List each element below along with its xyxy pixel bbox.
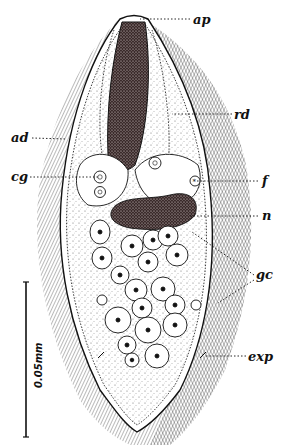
label-f: f bbox=[262, 174, 268, 187]
scale-bar-label: 0.05mm bbox=[33, 342, 44, 388]
svg-text:*: * bbox=[193, 178, 197, 186]
scale-bar bbox=[23, 282, 29, 437]
label-gc: gc bbox=[256, 268, 273, 281]
label-ad: ad bbox=[11, 131, 29, 144]
label-ap: ap bbox=[193, 13, 211, 26]
label-n: n bbox=[262, 209, 271, 222]
label-rd: rd bbox=[234, 108, 250, 121]
label-exp: exp bbox=[248, 350, 273, 363]
label-cg: cg bbox=[11, 170, 28, 183]
